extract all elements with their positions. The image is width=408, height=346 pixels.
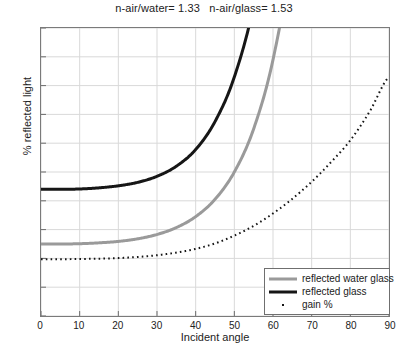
legend-swatch-dot-icon: [268, 299, 298, 311]
legend-item-reflected-glass: reflected glass: [268, 285, 385, 298]
legend-swatch-line-gray-icon: [268, 273, 298, 285]
legend-label: gain %: [302, 299, 333, 310]
x-tick-label: 0: [20, 320, 60, 331]
chart-title: n-air/water= 1.33 n-air/glass= 1.53: [0, 2, 408, 14]
x-axis-label: Incident angle: [40, 331, 390, 343]
chart-legend: reflected water glass reflected glass ga…: [264, 268, 390, 315]
x-tick-label: 30: [137, 320, 177, 331]
series-line: [41, 28, 254, 189]
legend-item-reflected-water-glass: reflected water glass: [268, 272, 385, 285]
legend-item-gain-percent: gain %: [268, 298, 385, 311]
x-tick-label: 50: [214, 320, 254, 331]
series-line: [41, 77, 389, 259]
legend-label: reflected glass: [302, 286, 366, 297]
x-tick-label: 90: [370, 320, 408, 331]
x-tick-label: 60: [253, 320, 293, 331]
x-tick-label: 80: [331, 320, 371, 331]
x-tick-label: 10: [59, 320, 99, 331]
legend-swatch-line-black-icon: [268, 286, 298, 298]
x-tick-label: 70: [292, 320, 332, 331]
legend-label: reflected water glass: [302, 273, 394, 284]
x-tick-label: 40: [176, 320, 216, 331]
series-line: [41, 28, 285, 244]
x-tick-label: 20: [98, 320, 138, 331]
y-axis-label: % reflected light: [21, 36, 33, 196]
